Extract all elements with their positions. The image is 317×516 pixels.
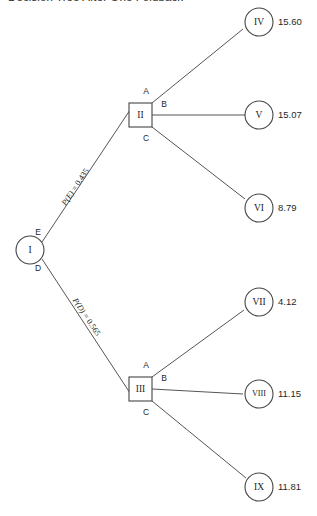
decision-tree-canvas: I II III IV 15.60 V 15.07 VI 8.79 VII 4.… [0,0,317,516]
svg-text:P(D) = 0.565: P(D) = 0.565 [70,295,102,337]
node-IV-label: IV [254,17,264,27]
node-I-label: I [28,245,31,255]
payoff-VIII: 11.15 [278,388,301,399]
edge-I-to-III [42,259,130,393]
branch-label-III-C: C [143,407,149,417]
edge-II-to-IV [152,29,243,103]
prob-E-value: 0.435 [73,167,91,187]
node-VI-label: VI [254,203,264,213]
prob-label-D-group: P(D) = 0.565 [70,295,102,337]
payoff-VII: 4.12 [278,296,297,307]
branch-label-II-B: B [161,99,167,109]
payoff-VI: 8.79 [278,202,297,213]
payoff-V: 15.07 [278,109,302,120]
svg-text:P(E) = 0.435: P(E) = 0.435 [59,167,91,208]
decision-tree-figure: Decision Tree After One Foldback I II II… [0,0,317,516]
edge-III-to-VII [152,310,244,377]
branch-label-III-A: A [143,360,149,370]
node-VIII-label: VIII [252,389,266,398]
node-II-label: II [137,110,143,120]
branch-label-I-D: D [35,263,41,273]
edge-III-to-VIII [152,389,243,394]
edge-II-to-VI [152,127,245,199]
node-IX-label: IX [254,482,264,492]
branch-label-II-C: C [143,133,149,143]
prob-label-E-group: P(E) = 0.435 [59,167,91,208]
branch-label-I-E: E [35,227,41,237]
node-III-label: III [136,384,146,394]
branch-label-III-B: B [161,373,167,383]
node-V-label: V [256,110,263,120]
edge-III-to-IX [152,401,246,478]
node-VII-label: VII [252,297,265,307]
branch-label-II-A: A [143,86,149,96]
payoff-IV: 15.60 [278,16,302,27]
payoff-IX: 11.81 [278,481,301,492]
